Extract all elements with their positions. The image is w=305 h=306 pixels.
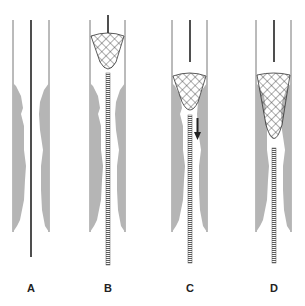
catheter-shaft <box>188 115 192 263</box>
plaque-left <box>172 83 185 232</box>
plaque-left <box>90 83 103 232</box>
panel-b <box>90 15 125 265</box>
diagram-canvas <box>0 0 305 306</box>
filter-basket <box>91 33 124 69</box>
panel-c <box>172 20 207 263</box>
plaque-right <box>115 83 125 232</box>
plaque-left <box>13 83 26 232</box>
panel-a <box>13 20 49 257</box>
catheter-shaft <box>106 73 110 265</box>
panel-label-c: C <box>180 282 200 294</box>
panel-label-a: A <box>21 282 41 294</box>
panel-label-b: B <box>98 282 118 294</box>
panel-label-d: D <box>264 282 284 294</box>
catheter-shaft <box>272 148 276 263</box>
panel-d <box>256 20 291 263</box>
plaque-right <box>39 83 49 232</box>
plaque-right <box>197 83 207 232</box>
